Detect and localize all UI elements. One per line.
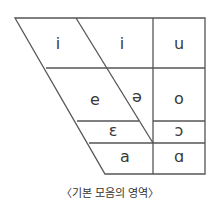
vowel-script-a: ɑ <box>174 149 184 165</box>
vowel-open-e: ɛ <box>109 123 118 139</box>
vowel-e: e <box>90 92 100 108</box>
vowel-schwa: ə <box>132 89 142 105</box>
vowel-open-o: ɔ <box>175 123 184 139</box>
vowel-o: o <box>174 91 184 107</box>
vowel-i-central: i <box>120 36 124 52</box>
diagram-caption: 〈기본 모음의 영역〉 <box>0 184 220 200</box>
vowel-chart-lines <box>0 0 220 211</box>
vowel-a: a <box>120 149 130 165</box>
vowel-u: u <box>174 36 184 52</box>
vowel-i-front: i <box>56 36 60 52</box>
